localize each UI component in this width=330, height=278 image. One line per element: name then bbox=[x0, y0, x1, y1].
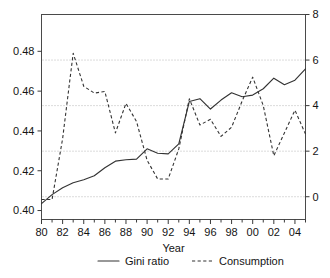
left-axis-tick-label: 0.44 bbox=[13, 125, 34, 137]
x-axis-tick-label: 86 bbox=[99, 226, 111, 238]
legend-label-consumption: Consumption bbox=[219, 255, 284, 267]
legend-label-gini-ratio: Gini ratio bbox=[125, 255, 169, 267]
x-axis-tick-label: 80 bbox=[35, 226, 47, 238]
left-axis-tick-label: 0.48 bbox=[13, 45, 34, 57]
plot-frame bbox=[42, 15, 306, 220]
x-axis-tick-label: 98 bbox=[225, 226, 237, 238]
x-axis-tick-label: 04 bbox=[289, 226, 301, 238]
chart-figure: 0.400.420.440.460.4802468808284868890929… bbox=[0, 0, 330, 278]
x-axis-tick-label: 96 bbox=[204, 226, 216, 238]
x-axis-tick-label: 02 bbox=[268, 226, 280, 238]
series-line-gini-ratio bbox=[42, 69, 306, 204]
x-axis-tick-label: 94 bbox=[183, 226, 195, 238]
right-axis-tick-label: 4 bbox=[313, 99, 319, 111]
x-axis-tick-label: 90 bbox=[141, 226, 153, 238]
left-axis-tick-label: 0.42 bbox=[13, 165, 34, 177]
right-axis-tick-label: 0 bbox=[313, 191, 319, 203]
x-axis-tick-label: 88 bbox=[120, 226, 132, 238]
x-axis-tick-label: 00 bbox=[247, 226, 259, 238]
series-line-consumption bbox=[42, 53, 306, 199]
x-axis-tick-label: 92 bbox=[162, 226, 174, 238]
x-axis-tick-label: 84 bbox=[78, 226, 90, 238]
x-axis-title: Year bbox=[162, 242, 185, 254]
right-axis-tick-label: 2 bbox=[313, 145, 319, 157]
line-chart: 0.400.420.440.460.4802468808284868890929… bbox=[0, 0, 330, 278]
right-axis-tick-label: 6 bbox=[313, 54, 319, 66]
right-axis-tick-label: 8 bbox=[313, 8, 319, 20]
left-axis-tick-label: 0.46 bbox=[13, 85, 34, 97]
left-axis-tick-label: 0.40 bbox=[13, 204, 34, 216]
x-axis-tick-label: 82 bbox=[56, 226, 68, 238]
